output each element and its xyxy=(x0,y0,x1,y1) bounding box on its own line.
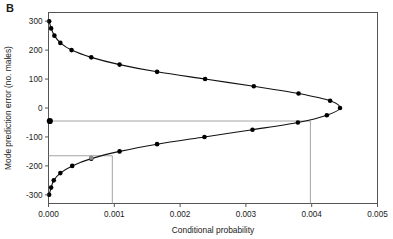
data-point-15 xyxy=(250,127,255,132)
y-tick-label-4: -100 xyxy=(26,133,43,142)
y-tick-label-0: 300 xyxy=(29,17,43,26)
data-point-4 xyxy=(69,48,74,53)
data-point-11 xyxy=(328,98,333,103)
figure-panel-b: B 0.0000.0010.0020.0030.0040.005 3002001… xyxy=(0,0,393,239)
data-point-20 xyxy=(70,164,75,169)
data-curve xyxy=(49,21,340,195)
y-tick-label-1: 200 xyxy=(29,46,43,55)
data-series-layer xyxy=(47,19,343,197)
x-axis: 0.0000.0010.0020.0030.0040.005 xyxy=(38,204,388,219)
x-tick-label-1: 0.001 xyxy=(104,210,125,219)
x-tick-label-3: 0.003 xyxy=(236,210,257,219)
data-point-1 xyxy=(49,26,54,31)
data-point-21 xyxy=(58,171,63,176)
data-point-3 xyxy=(58,41,63,46)
data-point-23 xyxy=(49,185,54,190)
data-point-6 xyxy=(117,62,122,67)
data-point-5 xyxy=(89,55,94,60)
data-point-12 xyxy=(338,106,343,111)
y-tick-label-3: 0 xyxy=(38,104,43,113)
data-point-10 xyxy=(296,91,301,96)
panel-label: B xyxy=(6,2,14,14)
x-tick-label-4: 0.004 xyxy=(301,210,322,219)
y-axis: 3002001000-100-200-300 xyxy=(26,17,48,200)
y-tick-label-5: -200 xyxy=(26,162,43,171)
data-point-22 xyxy=(51,178,56,183)
data-point-2 xyxy=(52,33,57,38)
y-tick-label-2: 100 xyxy=(29,75,43,84)
data-point-13 xyxy=(325,113,330,118)
data-point-14 xyxy=(296,120,301,125)
data-point-17 xyxy=(155,142,160,147)
conditional-probability-plot: 0.0000.0010.0020.0030.0040.005 300200100… xyxy=(0,0,393,239)
data-markers xyxy=(47,19,342,197)
highlight-point-0 xyxy=(47,118,53,124)
x-axis-title: Conditional probability xyxy=(172,225,255,235)
highlight-point-1 xyxy=(89,155,94,160)
data-point-7 xyxy=(155,70,160,75)
reference-lines xyxy=(49,121,311,203)
data-point-9 xyxy=(252,84,257,89)
highlight-markers xyxy=(47,118,94,160)
plot-frame xyxy=(49,13,378,204)
y-axis-title: Mode prediction error (no. males) xyxy=(3,46,13,170)
x-tick-label-5: 0.005 xyxy=(367,210,388,219)
x-tick-label-2: 0.002 xyxy=(170,210,191,219)
data-point-8 xyxy=(203,77,208,82)
data-point-18 xyxy=(117,149,122,154)
y-tick-label-6: -300 xyxy=(26,191,43,200)
x-tick-label-0: 0.000 xyxy=(38,210,59,219)
data-point-16 xyxy=(202,135,207,140)
